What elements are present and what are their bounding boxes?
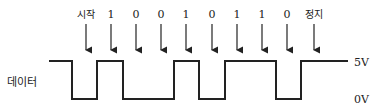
bit-label: 0: [133, 9, 140, 21]
bit-label: 시작: [77, 9, 95, 21]
bit-label: 0: [158, 9, 165, 21]
low-level-label: 0V: [354, 93, 369, 106]
bit-arrows: [86, 24, 314, 50]
bit-label: 1: [234, 9, 241, 21]
waveform-svg: [0, 0, 382, 108]
bit-label: 정지: [305, 9, 323, 21]
bit-label: 1: [183, 9, 190, 21]
high-level-label: 5V: [354, 56, 369, 69]
bit-label: 0: [284, 9, 291, 21]
bit-label: 1: [108, 9, 115, 21]
bit-label: 0: [209, 9, 216, 21]
data-waveform: [49, 61, 348, 99]
signal-label: 데이터: [7, 73, 37, 89]
bit-label: 1: [259, 9, 266, 21]
